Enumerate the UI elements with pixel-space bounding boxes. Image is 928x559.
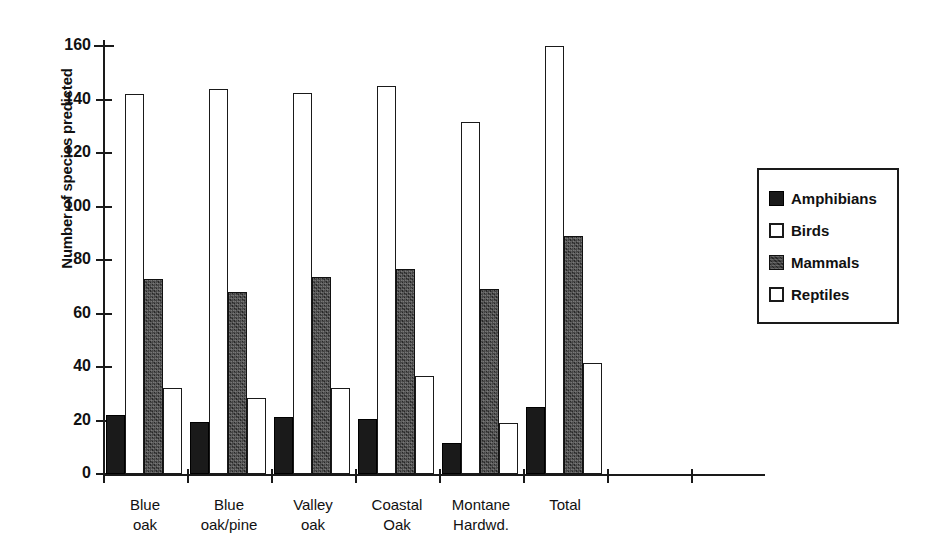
legend-item-amphibians: Amphibians	[769, 182, 887, 214]
bar-mammals-montane-hardwd	[480, 289, 499, 474]
bar-reptiles-valley-oak	[331, 388, 350, 474]
y-axis-tick-label: 120	[64, 142, 91, 162]
legend-swatch-mammals-icon	[769, 255, 784, 270]
legend-label: Reptiles	[791, 286, 849, 303]
x-axis-tick	[355, 469, 357, 483]
y-axis-tick	[96, 313, 112, 315]
bar-birds-blue-oak-pine	[209, 89, 228, 474]
legend-item-mammals: Mammals	[769, 246, 887, 278]
legend-item-birds: Birds	[769, 214, 887, 246]
bar-birds-montane-hardwd	[461, 122, 480, 474]
legend-item-reptiles: Reptiles	[769, 278, 887, 310]
bar-amphibians-blue-oak-pine	[190, 422, 209, 474]
x-axis-line	[103, 474, 765, 476]
y-axis-tick-label: 20	[73, 410, 91, 430]
y-axis-tick-label: 160	[64, 35, 91, 55]
chart-page: Number of species predicted 020406080100…	[0, 0, 928, 559]
y-axis-title: Number of species predicted	[58, 19, 75, 319]
y-axis-tick	[96, 259, 112, 261]
bar-reptiles-blue-oak-pine	[247, 398, 266, 474]
y-axis-tick-label: 140	[64, 89, 91, 109]
bar-mammals-blue-oak	[144, 279, 163, 474]
x-axis-tick	[187, 469, 189, 483]
y-axis-tick-label: 40	[73, 356, 91, 376]
bar-birds-blue-oak	[125, 94, 144, 474]
chart-legend: AmphibiansBirdsMammalsReptiles	[757, 168, 899, 324]
y-axis-tick-label: 60	[73, 303, 91, 323]
y-axis-tick-label: 80	[73, 249, 91, 269]
legend-label: Amphibians	[791, 190, 877, 207]
legend-label: Birds	[791, 222, 829, 239]
y-axis-tick-label: 0	[82, 463, 91, 483]
bar-amphibians-coastal-oak	[358, 419, 377, 474]
x-axis-tick	[103, 469, 105, 483]
x-axis-tick	[607, 469, 609, 483]
bar-reptiles-total	[583, 363, 602, 474]
bar-amphibians-montane-hardwd	[442, 443, 461, 474]
x-axis-tick	[439, 469, 441, 483]
legend-swatch-birds-icon	[769, 223, 784, 238]
bar-amphibians-blue-oak	[106, 415, 125, 474]
bar-amphibians-valley-oak	[274, 417, 293, 475]
bar-mammals-coastal-oak	[396, 269, 415, 474]
plot-area: 020406080100120140160 BlueoakBlueoak/pin…	[103, 40, 765, 476]
y-axis-tick	[96, 366, 112, 368]
legend-label: Mammals	[791, 254, 859, 271]
bar-birds-coastal-oak	[377, 86, 396, 474]
x-axis-tick	[691, 469, 693, 483]
bar-reptiles-coastal-oak	[415, 376, 434, 474]
bar-mammals-total	[564, 236, 583, 474]
x-axis-label: Total	[515, 495, 615, 515]
y-axis-tick	[96, 206, 112, 208]
bar-mammals-valley-oak	[312, 277, 331, 474]
legend-swatch-reptiles-icon	[769, 287, 784, 302]
legend-swatch-amphibians-icon	[769, 191, 784, 206]
bar-amphibians-total	[526, 407, 545, 474]
y-axis-tick	[96, 99, 112, 101]
y-axis-tick-label: 100	[64, 196, 91, 216]
y-axis-line	[103, 40, 105, 476]
bar-reptiles-montane-hardwd	[499, 423, 518, 474]
y-axis-tick	[96, 152, 112, 154]
bar-mammals-blue-oak-pine	[228, 292, 247, 474]
x-axis-tick	[271, 469, 273, 483]
x-axis-tick	[523, 469, 525, 483]
bar-birds-total	[545, 46, 564, 474]
y-axis-tick	[94, 45, 114, 47]
bar-reptiles-blue-oak	[163, 388, 182, 474]
bar-birds-valley-oak	[293, 93, 312, 474]
